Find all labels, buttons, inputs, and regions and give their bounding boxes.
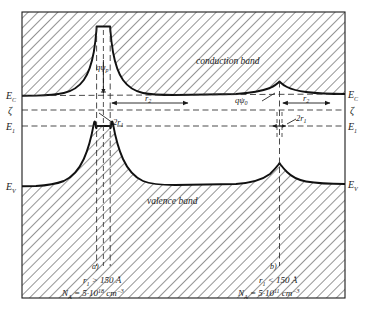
panel-a-condition: r1 > 150 Å xyxy=(83,275,122,287)
panel-a-tag: a) xyxy=(92,262,99,271)
label-zeta-left: ζ xyxy=(8,105,13,117)
label-Ev-left: EV xyxy=(5,181,17,194)
band-diagram-svg: EC ζ E1 EV EC ζ E1 EV conduction band va… xyxy=(0,0,367,310)
valence-band-label: valence band xyxy=(147,196,198,206)
conduction-band-region xyxy=(22,12,345,96)
label-zeta-right: ζ xyxy=(350,105,355,117)
conduction-band-label: conduction band xyxy=(196,56,260,66)
label-Ec-right: EC xyxy=(347,89,359,102)
label-Ev-right: EV xyxy=(347,179,359,192)
panel-b-tag: b) xyxy=(270,262,277,271)
label-Ec-left: EC xyxy=(5,90,17,103)
panel-b-condition: r1 < 150 Å xyxy=(259,275,298,287)
label-E1-right: E1 xyxy=(347,121,357,134)
label-E1-left: E1 xyxy=(5,121,15,134)
figure-container: EC ζ E1 EV EC ζ E1 EV conduction band va… xyxy=(0,0,367,310)
